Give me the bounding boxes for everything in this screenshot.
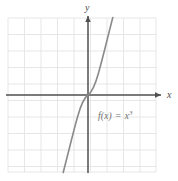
y-axis-arrow xyxy=(85,16,90,22)
function-exponent: 3 xyxy=(129,109,132,116)
function-name: f(x) xyxy=(98,111,112,121)
x-axis-label: x xyxy=(167,90,171,100)
function-equation-label: f(x) = x3 xyxy=(98,109,133,122)
function-graph-figure: y x f(x) = x3 xyxy=(0,0,178,181)
x-axis xyxy=(6,92,161,97)
plot-canvas xyxy=(0,0,178,181)
y-axis-label: y xyxy=(85,3,89,13)
equals-sign: = xyxy=(112,111,125,121)
x-axis-arrow xyxy=(155,92,161,97)
